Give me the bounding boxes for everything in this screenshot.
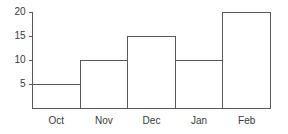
x-axis-tick-labels: OctNovDecJanFeb [49,115,256,126]
y-axis-tick-marks [29,13,33,85]
x-axis-tick-label: Feb [238,115,256,126]
bar-chart: 2015105 OctNovDecJanFeb [0,0,288,134]
bar [223,13,271,109]
bar-series [33,13,271,109]
chart-canvas: 2015105 OctNovDecJanFeb [0,0,288,134]
y-axis-tick-label: 20 [14,6,26,17]
y-axis-tick-label: 5 [20,78,26,89]
y-axis-tick-label: 15 [14,30,26,41]
y-axis-tick-labels: 2015105 [14,6,26,89]
bar [128,37,176,109]
bar [175,61,223,109]
x-axis-tick-label: Oct [49,115,65,126]
x-axis-tick-label: Jan [191,115,207,126]
bar [33,85,81,109]
bar [80,61,128,109]
x-axis-tick-label: Dec [143,115,161,126]
y-axis-tick-label: 10 [14,54,26,65]
x-axis-tick-label: Nov [95,115,113,126]
